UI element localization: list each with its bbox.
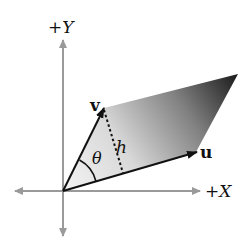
vector-u-label: u (200, 142, 212, 162)
parallelogram-diagram: +Y +X v u h θ (0, 0, 252, 242)
x-axis-label: +X (205, 181, 232, 201)
vector-v-label: v (89, 95, 101, 115)
parallelogram-area (63, 74, 238, 191)
height-label: h (116, 137, 127, 157)
y-axis-label: +Y (48, 17, 75, 37)
angle-label: θ (92, 149, 102, 168)
